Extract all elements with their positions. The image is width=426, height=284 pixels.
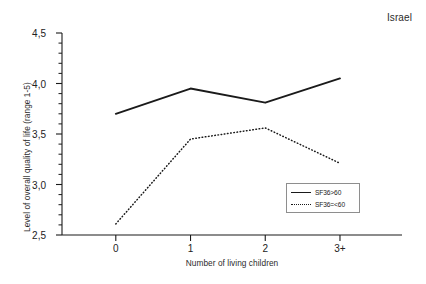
chart-container: Israel Level of overall quality of life …: [0, 0, 426, 284]
x-tick-label: 2: [245, 243, 285, 254]
legend-item-label: SF36=<60: [315, 201, 345, 208]
legend-item-label: SF36>60: [315, 189, 341, 196]
x-tick-label: 0: [96, 243, 136, 254]
x-tick-label: 3+: [320, 243, 360, 254]
x-tick-label: 1: [171, 243, 211, 254]
legend-solid-line-icon: [291, 189, 311, 195]
legend-item: SF36=<60: [291, 199, 355, 209]
legend-dotted-line-icon: [291, 201, 311, 207]
legend-item: SF36>60: [291, 187, 355, 197]
x-axis-tick-labels: 0123+: [0, 0, 426, 284]
chart-legend: SF36>60SF36=<60: [286, 183, 360, 213]
